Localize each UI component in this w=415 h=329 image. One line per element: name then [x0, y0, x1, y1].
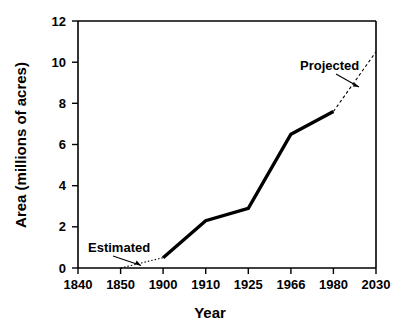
y-tick-label-8: 8	[59, 96, 66, 111]
y-tick-label-2: 2	[59, 219, 66, 234]
chart-container: 0 2 4 6 8 10 12 1840 1850 1900 1910 1925…	[0, 0, 415, 329]
x-tick-label-1850: 1850	[106, 277, 135, 292]
x-tick-label-1966: 1966	[276, 277, 305, 292]
annotation-estimated-label: Estimated	[88, 240, 150, 255]
y-axis-title: Area (millions of acres)	[12, 62, 29, 228]
annotation-projected-label: Projected	[300, 58, 359, 73]
x-tick-label-1980: 1980	[319, 277, 348, 292]
x-tick-label-2030: 2030	[362, 277, 391, 292]
y-tick-label-12: 12	[52, 14, 66, 29]
x-tick-label-1910: 1910	[191, 277, 220, 292]
y-axis-ticks	[72, 21, 78, 268]
y-tick-label-0: 0	[59, 261, 66, 276]
x-axis-title: Year	[194, 304, 226, 321]
x-tick-label-1925: 1925	[234, 277, 263, 292]
x-tick-label-1840: 1840	[64, 277, 93, 292]
y-tick-label-10: 10	[52, 55, 66, 70]
x-axis-ticks	[78, 268, 376, 274]
line-chart: 0 2 4 6 8 10 12 1840 1850 1900 1910 1925…	[0, 0, 415, 329]
y-tick-label-6: 6	[59, 137, 66, 152]
x-tick-label-1900: 1900	[149, 277, 178, 292]
y-tick-label-4: 4	[59, 178, 67, 193]
